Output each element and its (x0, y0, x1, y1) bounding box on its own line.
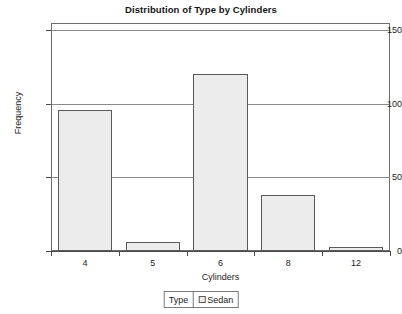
bar[interactable] (58, 110, 112, 251)
x-axis-tick-label: 4 (82, 258, 87, 268)
x-axis-tick (119, 252, 120, 256)
bar[interactable] (126, 242, 180, 251)
x-axis-line (51, 251, 391, 252)
plot-area (51, 23, 390, 251)
legend-entry[interactable]: Sedan (193, 292, 237, 307)
x-axis-tick-label: 6 (218, 258, 223, 268)
x-axis-tick-label: 5 (150, 258, 155, 268)
bar[interactable] (193, 74, 247, 251)
chart-screenshot: Distribution of Type by Cylinders 050100… (0, 0, 402, 314)
y-axis-tick (46, 104, 51, 105)
x-axis-tick (254, 252, 255, 256)
chart-title: Distribution of Type by Cylinders (0, 4, 402, 15)
x-axis-tick-label: 12 (351, 258, 361, 268)
legend-swatch-icon (198, 296, 205, 303)
x-axis-tick (390, 252, 391, 256)
y-axis-tick-label: 150 (360, 25, 402, 35)
y-axis-tick-label: 100 (360, 99, 402, 109)
legend[interactable]: Type Sedan (164, 291, 239, 308)
y-axis-tick (46, 30, 51, 31)
y-axis-tick-label: 50 (360, 172, 402, 182)
y-axis-tick (46, 177, 51, 178)
x-axis-tick (187, 252, 188, 256)
bar[interactable] (261, 195, 315, 251)
legend-title: Type (165, 292, 194, 307)
x-axis-tick (322, 252, 323, 256)
gridline (51, 30, 390, 31)
y-axis-line (51, 23, 52, 252)
x-axis-tick-label: 8 (286, 258, 291, 268)
x-axis-tick (51, 252, 52, 256)
legend-entry-label: Sedan (207, 295, 233, 305)
y-axis-title: Frequency (13, 73, 23, 153)
x-axis-title: Cylinders (51, 272, 390, 282)
